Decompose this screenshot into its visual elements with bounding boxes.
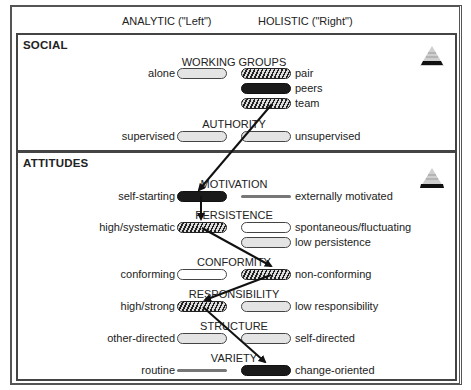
option-label: unsupervised: [295, 130, 465, 142]
pill-alone: [177, 68, 227, 79]
option-label: supervised: [15, 130, 175, 142]
pill-spontaneous: [241, 222, 291, 233]
pill-high-strong: [177, 301, 227, 312]
category-authority: AUTHORITY: [134, 118, 334, 130]
section-title: ATTITUDES: [23, 157, 88, 169]
pill-other-directed: [177, 333, 227, 344]
option-label: self-directed: [295, 332, 465, 344]
pyramid-icon: [419, 45, 445, 67]
option-label: spontaneous/fluctuating: [295, 221, 465, 233]
pill-pair: [241, 68, 291, 79]
section-title: SOCIAL: [23, 39, 68, 51]
line-externally-motivated: [241, 195, 291, 198]
pill-low-persistence: [241, 237, 291, 248]
option-label: team: [295, 97, 465, 109]
option-label: change-oriented: [295, 364, 465, 376]
option-label: pair: [295, 67, 465, 79]
option-label: self-starting: [15, 190, 175, 202]
option-label: conforming: [15, 268, 175, 280]
pill-peers: [241, 83, 291, 94]
column-header-holistic: HOLISTIC ("Right"): [258, 15, 353, 27]
pill-supervised: [177, 131, 227, 142]
option-label: low responsibility: [295, 300, 465, 312]
category-conformity: CONFORMITY: [134, 256, 334, 268]
option-label: peers: [295, 82, 465, 94]
pill-unsupervised: [241, 131, 291, 142]
pyramid-icon: [419, 167, 445, 189]
pill-self-directed: [241, 333, 291, 344]
option-label: non-conforming: [295, 268, 465, 280]
category-structure: STRUCTURE: [134, 320, 334, 332]
pill-high-systematic: [177, 222, 227, 233]
option-label: alone: [15, 67, 175, 79]
pill-low-responsibility: [241, 301, 291, 312]
option-label: high/systematic: [15, 221, 175, 233]
line-routine: [177, 369, 227, 372]
category-motivation: MOTIVATION: [134, 178, 334, 190]
pill-change-oriented: [241, 365, 291, 376]
option-label: other-directed: [15, 332, 175, 344]
pill-non-conforming: [241, 269, 291, 280]
pill-team: [241, 98, 291, 109]
column-header-analytic: ANALYTIC ("Left"): [122, 15, 212, 27]
pill-self-starting: [177, 191, 227, 202]
category-responsibility: RESPONSIBILITY: [134, 288, 334, 300]
pill-conforming: [177, 269, 227, 280]
option-label: externally motivated: [295, 190, 465, 202]
option-label: high/strong: [15, 300, 175, 312]
category-variety: VARIETY: [134, 352, 334, 364]
option-label: routine: [15, 364, 175, 376]
option-label: low persistence: [295, 236, 465, 248]
category-persistence: PERSISTENCE: [134, 209, 334, 221]
